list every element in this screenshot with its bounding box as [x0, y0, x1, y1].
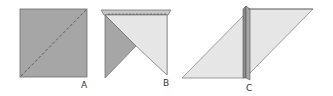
- step-b-fold: [101, 10, 171, 78]
- step-a-label: A: [81, 81, 87, 90]
- step-c-label: C: [246, 84, 252, 93]
- origami-diagram: A B C: [0, 0, 333, 96]
- step-b-label: B: [163, 79, 169, 88]
- step-c-parallelogram: [182, 6, 313, 80]
- step-a-square: [20, 9, 87, 77]
